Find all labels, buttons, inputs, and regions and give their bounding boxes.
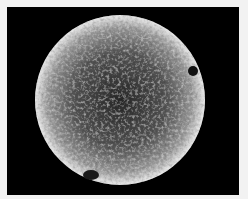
surface-shadow <box>83 170 99 180</box>
micrograph-frame <box>7 7 239 195</box>
surface-pit <box>188 66 198 76</box>
sphere-particle <box>7 7 239 195</box>
